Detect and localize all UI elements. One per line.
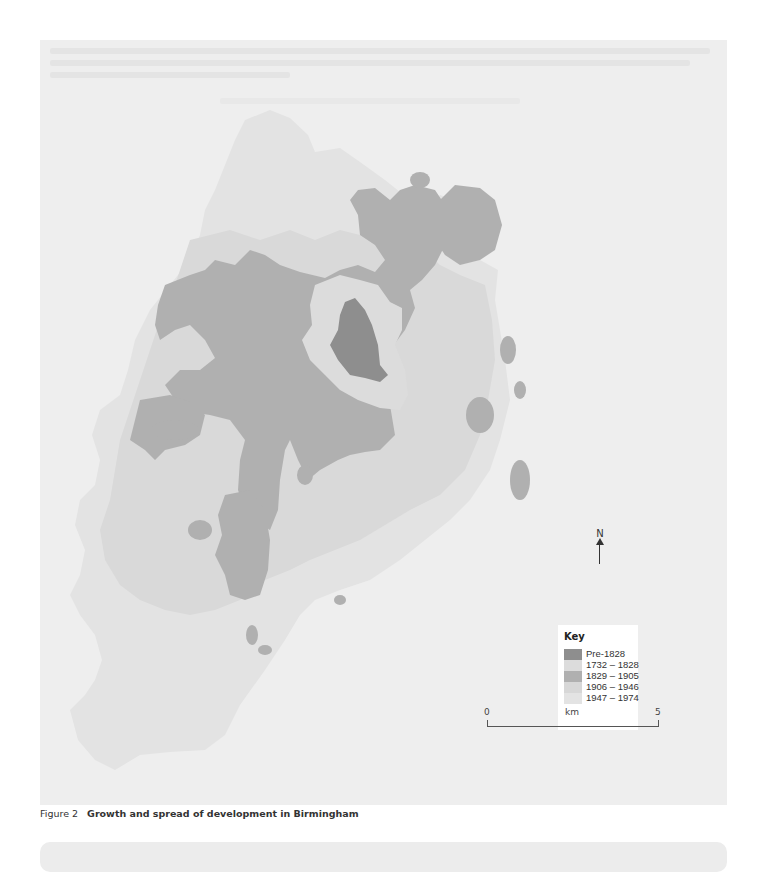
- map-panel: N Key Pre-1828 1732 – 1828 1829 – 1905 1…: [40, 40, 727, 805]
- legend-swatch: [564, 682, 582, 693]
- scale-tick: [658, 720, 659, 727]
- north-arrow-icon: [596, 538, 604, 545]
- legend-title: Key: [564, 631, 585, 642]
- patch: [500, 336, 516, 364]
- patch: [334, 595, 346, 605]
- legend-swatch: [564, 671, 582, 682]
- scale-bar: 0 km 5: [483, 706, 713, 736]
- legend-label: 1947 – 1974: [586, 692, 639, 703]
- patch: [514, 381, 526, 399]
- north-arrow: N: [593, 528, 607, 539]
- scale-start-label: 0: [484, 707, 490, 717]
- patch: [188, 520, 212, 540]
- legend-label: 1906 – 1946: [586, 681, 639, 692]
- scale-unit-label: km: [565, 707, 579, 717]
- figure-number: Figure 2: [40, 808, 78, 819]
- legend-swatch: [564, 660, 582, 671]
- figure-title: Growth and spread of development in Birm…: [87, 808, 358, 819]
- figure-caption: Figure 2 Growth and spread of developmen…: [40, 808, 359, 819]
- patch: [150, 420, 200, 440]
- legend-label: 1732 – 1828: [586, 659, 639, 670]
- patch: [410, 172, 430, 188]
- legend-item: 1947 – 1974: [564, 693, 638, 704]
- patch: [258, 645, 272, 655]
- legend-swatch: [564, 693, 582, 704]
- legend-label: 1829 – 1905: [586, 670, 639, 681]
- north-arrow-shaft: [599, 542, 600, 564]
- scale-line: [487, 726, 659, 727]
- patch: [510, 460, 530, 500]
- patch: [246, 625, 258, 645]
- patch: [466, 397, 494, 433]
- scale-end-label: 5: [655, 707, 661, 717]
- legend-swatch: [564, 649, 582, 660]
- next-content-box: [40, 842, 727, 872]
- patch: [297, 465, 313, 485]
- legend-label: Pre-1828: [586, 648, 625, 659]
